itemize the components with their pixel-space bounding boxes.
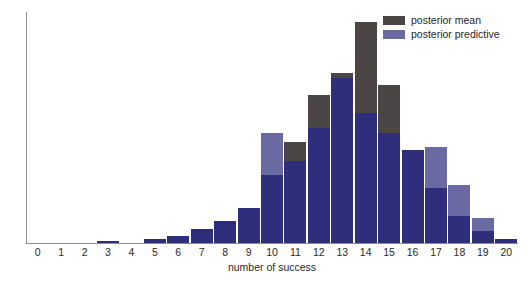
legend-label-posterior-mean: posterior mean [411,15,481,26]
bar-group [402,150,424,243]
bar-segment-overlap [402,150,424,243]
bar-group [284,142,306,243]
x-tick-label: 15 [377,245,400,259]
x-tick-label: 13 [331,245,354,259]
bar-segment-overlap [331,78,353,243]
bar-segment-posterior-mean [378,85,400,133]
legend-swatch-icon-posterior-predictive [383,30,405,39]
bar-segment-overlap [214,221,236,243]
bar-segment-overlap [97,241,119,243]
bar-segment-overlap [261,175,283,243]
x-tick-label: 12 [307,245,330,259]
x-tick-label: 1 [49,245,72,259]
bar-segment-posterior-mean [355,22,377,113]
bar-group [425,147,447,243]
bar-group [495,239,517,243]
x-tick-label: 18 [448,245,471,259]
x-tick-label: 5 [143,245,166,259]
x-tick-label: 7 [190,245,213,259]
x-axis-line [26,243,518,244]
bar-segment-overlap [472,231,494,243]
bar-segment-overlap [355,113,377,243]
bar-group [261,133,283,243]
bar-segment-overlap [378,133,400,243]
bar-segment-overlap [191,229,213,243]
x-tick-labels: 01234567891011121314151617181920 [26,245,518,261]
x-tick-label: 6 [167,245,190,259]
x-tick-label: 20 [495,245,518,259]
x-tick-label: 0 [26,245,49,259]
bar-segment-overlap [144,239,166,243]
x-tick-label: 19 [471,245,494,259]
x-tick-label: 16 [401,245,424,259]
chart-legend: posterior mean posterior predictive [383,15,500,40]
bar-group [214,221,236,243]
bar-segment-posterior-predictive [472,218,494,231]
bar-segment-overlap [284,161,306,243]
x-tick-label: 14 [354,245,377,259]
x-axis-title: number of success [26,261,518,273]
bar-segment-overlap [308,128,330,243]
bars-layer [26,12,518,243]
bar-segment-posterior-predictive [425,147,447,188]
bar-segment-overlap [238,208,260,243]
bar-group [331,73,353,243]
legend-swatch-icon-posterior-mean [383,16,405,25]
x-tick-label: 8 [213,245,236,259]
bar-segment-overlap [495,239,517,243]
chart-container: 01234567891011121314151617181920 number … [0,0,532,285]
x-tick-label: 9 [237,245,260,259]
bar-group [167,236,189,243]
bar-segment-posterior-predictive [261,133,283,175]
bar-group [448,185,470,243]
bar-group [355,22,377,243]
bar-group [238,208,260,243]
x-tick-label: 3 [96,245,119,259]
bar-group [472,218,494,243]
x-tick-label: 17 [424,245,447,259]
bar-segment-overlap [167,236,189,243]
x-tick-label: 11 [284,245,307,259]
bar-segment-overlap [425,188,447,243]
legend-item-posterior-mean: posterior mean [383,15,500,26]
x-tick-label: 2 [73,245,96,259]
bar-group [378,85,400,243]
bar-group [191,229,213,243]
x-tick-label: 10 [260,245,283,259]
bar-group [308,95,330,243]
bar-segment-overlap [448,216,470,243]
bar-group [97,241,119,243]
bar-group [144,239,166,243]
bar-segment-posterior-mean [284,142,306,161]
bar-segment-posterior-mean [308,95,330,128]
x-tick-label: 4 [120,245,143,259]
bar-segment-posterior-predictive [448,185,470,216]
legend-label-posterior-predictive: posterior predictive [411,29,500,40]
legend-item-posterior-predictive: posterior predictive [383,29,500,40]
